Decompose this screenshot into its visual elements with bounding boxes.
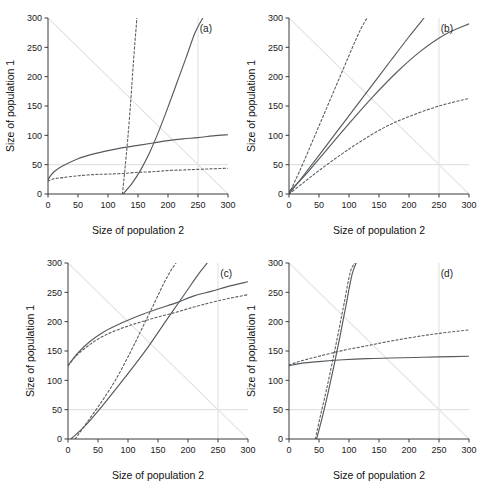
y-tick-label: 200 <box>47 317 62 327</box>
plot-area-b: 050100150200250300050100150200250300Size… <box>241 0 483 246</box>
reference-guides <box>289 263 469 439</box>
y-axis-title: Size of population 1 <box>245 305 257 397</box>
x-tick-label: 300 <box>461 445 476 455</box>
y-tick-label: 0 <box>278 434 283 444</box>
y-tick-label: 100 <box>27 131 42 141</box>
y-tick-label: 200 <box>27 72 42 82</box>
reference-guides <box>68 263 248 439</box>
x-axis-title: Size of population 2 <box>333 224 425 236</box>
panel-d: 050100150200250300050100150200250300Size… <box>241 245 483 491</box>
y-axis-title: Size of population 1 <box>24 305 36 397</box>
x-tick-label: 150 <box>130 200 145 210</box>
y-tick-label: 150 <box>268 101 283 111</box>
figure-four-panel-isocline-plots: 050100150200250300050100150200250300Size… <box>0 0 483 491</box>
x-tick-label: 200 <box>401 200 416 210</box>
plot-area-c: 050100150200250300050100150200250300Size… <box>20 245 262 491</box>
x-tick-label: 0 <box>45 200 50 210</box>
x-tick-label: 100 <box>120 445 135 455</box>
x-tick-label: 50 <box>73 200 83 210</box>
curve-isocline-3-solid-moderate <box>289 24 469 192</box>
x-tick-label: 50 <box>314 200 324 210</box>
curve-isocline-1-dashed-steep <box>289 18 367 194</box>
x-tick-label: 0 <box>286 200 291 210</box>
y-axis-title: Size of population 1 <box>245 60 257 152</box>
x-tick-label: 300 <box>461 200 476 210</box>
x-tick-label: 0 <box>286 445 291 455</box>
panel-label-a: (a) <box>200 23 212 34</box>
y-tick-label: 150 <box>27 101 42 111</box>
y-tick-label: 300 <box>47 258 62 268</box>
guide-anti-diagonal <box>289 18 469 194</box>
panel-b: 050100150200250300050100150200250300Size… <box>241 0 483 246</box>
x-tick-label: 0 <box>65 445 70 455</box>
panel-label-d: (d) <box>441 268 453 279</box>
x-tick-label: 50 <box>314 445 324 455</box>
reference-guides <box>289 18 469 194</box>
curve-isocline-4-dashed-shallow <box>289 98 469 194</box>
curve-isocline-1-solid-saturating <box>48 135 228 180</box>
y-tick-label: 100 <box>47 376 62 386</box>
y-tick-label: 0 <box>37 189 42 199</box>
y-tick-label: 300 <box>27 13 42 23</box>
y-tick-label: 150 <box>268 346 283 356</box>
x-tick-label: 150 <box>371 200 386 210</box>
y-tick-label: 100 <box>268 376 283 386</box>
x-tick-label: 250 <box>190 200 205 210</box>
axes: 050100150200250300050100150200250300 <box>27 13 236 210</box>
x-axis-title: Size of population 2 <box>92 224 184 236</box>
x-axis-title: Size of population 2 <box>333 469 425 481</box>
y-tick-label: 250 <box>27 43 42 53</box>
panel-a: 050100150200250300050100150200250300Size… <box>0 0 242 246</box>
plot-area-d: 050100150200250300050100150200250300Size… <box>241 245 483 491</box>
x-tick-label: 250 <box>431 200 446 210</box>
guide-anti-diagonal <box>68 263 248 439</box>
curve-isocline-2-solid-steep <box>289 18 424 194</box>
y-tick-label: 300 <box>268 258 283 268</box>
x-tick-label: 250 <box>210 445 225 455</box>
panel-c: 050100150200250300050100150200250300Size… <box>20 245 262 491</box>
y-tick-label: 250 <box>47 288 62 298</box>
guide-anti-diagonal <box>48 18 228 194</box>
y-tick-label: 0 <box>278 189 283 199</box>
y-tick-label: 50 <box>273 405 283 415</box>
plot-area-a: 050100150200250300050100150200250300Size… <box>0 0 242 246</box>
x-tick-label: 100 <box>341 445 356 455</box>
x-tick-label: 150 <box>371 445 386 455</box>
panel-label-c: (c) <box>220 268 232 279</box>
panel-label-b: (b) <box>441 23 453 34</box>
x-tick-label: 50 <box>93 445 103 455</box>
x-tick-label: 250 <box>431 445 446 455</box>
curve-isocline-4-solid-steep <box>71 263 207 439</box>
x-tick-label: 100 <box>100 200 115 210</box>
y-tick-label: 50 <box>32 160 42 170</box>
curve-isocline-4-dashed-near-vertical <box>122 18 136 194</box>
y-tick-label: 200 <box>268 317 283 327</box>
reference-guides <box>48 18 228 194</box>
y-tick-label: 150 <box>47 346 62 356</box>
x-axis-title: Size of population 2 <box>112 469 204 481</box>
curve-isocline-3-dashed-steep <box>75 263 176 439</box>
x-tick-label: 200 <box>160 200 175 210</box>
x-tick-label: 150 <box>150 445 165 455</box>
curve-isocline-3-solid-near-vertical <box>317 263 357 439</box>
x-tick-label: 200 <box>401 445 416 455</box>
y-tick-label: 50 <box>52 405 62 415</box>
y-tick-label: 250 <box>268 288 283 298</box>
curve-isocline-2-dashed-rising <box>289 330 469 365</box>
y-tick-label: 50 <box>273 160 283 170</box>
y-tick-label: 300 <box>268 13 283 23</box>
x-tick-label: 100 <box>341 200 356 210</box>
curve-isocline-1-solid-flat <box>289 356 469 365</box>
y-tick-label: 0 <box>57 434 62 444</box>
y-tick-label: 200 <box>268 72 283 82</box>
x-tick-label: 200 <box>180 445 195 455</box>
x-tick-label: 300 <box>220 200 235 210</box>
y-tick-label: 100 <box>268 131 283 141</box>
guide-anti-diagonal <box>289 263 469 439</box>
curve-isocline-2-dashed-saturating <box>68 295 248 366</box>
y-tick-label: 250 <box>268 43 283 53</box>
y-axis-title: Size of population 1 <box>4 60 16 152</box>
